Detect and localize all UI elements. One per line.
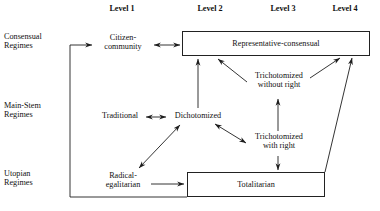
- node-totalitarian: Totalitarian: [187, 172, 325, 197]
- node-representative-consensual-label: Representative-consensual: [232, 39, 319, 48]
- node-citizen-community: Citizen- community: [95, 34, 151, 52]
- node-trichotomized-without-right: Trichotomized without right: [246, 72, 312, 90]
- node-dichotomized: Dichotomized: [166, 112, 230, 121]
- node-trichotomized-with-right-line2: with right: [246, 142, 312, 151]
- node-trichotomized-with-right: Trichotomized with right: [246, 133, 312, 151]
- node-dichotomized-label: Dichotomized: [166, 112, 230, 121]
- node-citizen-community-line2: community: [95, 43, 151, 52]
- edge-totalitarian-to-representative-consensual: [325, 58, 352, 172]
- diagram-canvas: Level 1 Level 2 Level 3 Level 4 Consensu…: [0, 0, 380, 211]
- node-representative-consensual: Representative-consensual: [182, 31, 370, 56]
- edge-trichotomized-without-right-to-representative-consensual: [218, 59, 247, 82]
- node-trichotomized-without-right-line2: without right: [246, 81, 312, 90]
- edge-dichotomized-to-trichotomized-with-right: [215, 124, 246, 143]
- edge-trichotomized-without-right-to-representative-consensual-right: [310, 58, 340, 78]
- node-traditional-label: Traditional: [94, 112, 146, 121]
- node-radical-egalitarian-line2: egalitarian: [94, 181, 152, 190]
- edge-radical-egalitarian-to-dichotomized: [139, 125, 180, 168]
- node-traditional: Traditional: [94, 112, 146, 121]
- node-totalitarian-label: Totalitarian: [237, 180, 275, 189]
- node-radical-egalitarian: Radical- egalitarian: [94, 172, 152, 190]
